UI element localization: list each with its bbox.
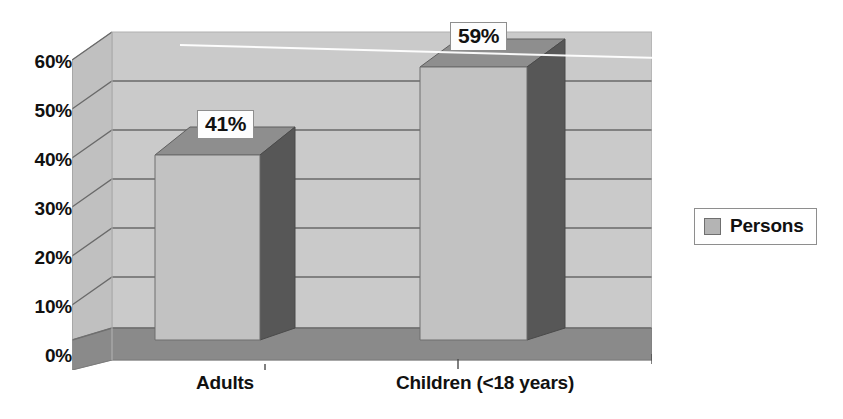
plot-svg	[72, 30, 652, 370]
legend: Persons	[694, 208, 817, 245]
y-tick-label-30: 30%	[6, 198, 72, 220]
data-label-adults: 41%	[197, 110, 254, 139]
x-category-label-adults: Adults	[150, 372, 300, 394]
left-wall	[72, 32, 112, 370]
bar-children-front	[420, 67, 527, 340]
bar-children[interactable]	[420, 39, 565, 340]
legend-label-persons: Persons	[730, 215, 804, 237]
y-axis-labels: 60% 50% 40% 30% 20% 10% 0%	[6, 0, 72, 419]
y-tick-label-10: 10%	[6, 296, 72, 318]
legend-swatch-persons	[704, 218, 721, 235]
data-label-children: 59%	[450, 22, 507, 51]
y-tick-label-20: 20%	[6, 247, 72, 269]
plot-area	[72, 30, 652, 360]
y-tick-label-0: 0%	[6, 345, 72, 367]
x-category-label-children: Children (<18 years)	[350, 372, 620, 394]
bar-adults[interactable]	[155, 127, 295, 340]
chart-title	[0, 0, 660, 1]
y-tick-label-40: 40%	[6, 149, 72, 171]
bar-adults-front	[155, 155, 260, 340]
y-tick-label-60: 60%	[6, 51, 72, 73]
y-tick-label-50: 50%	[6, 100, 72, 122]
bar-children-side	[527, 39, 565, 340]
bar-adults-side	[260, 127, 295, 340]
chart-3d-column: 60% 50% 40% 30% 20% 10% 0%	[0, 0, 843, 419]
